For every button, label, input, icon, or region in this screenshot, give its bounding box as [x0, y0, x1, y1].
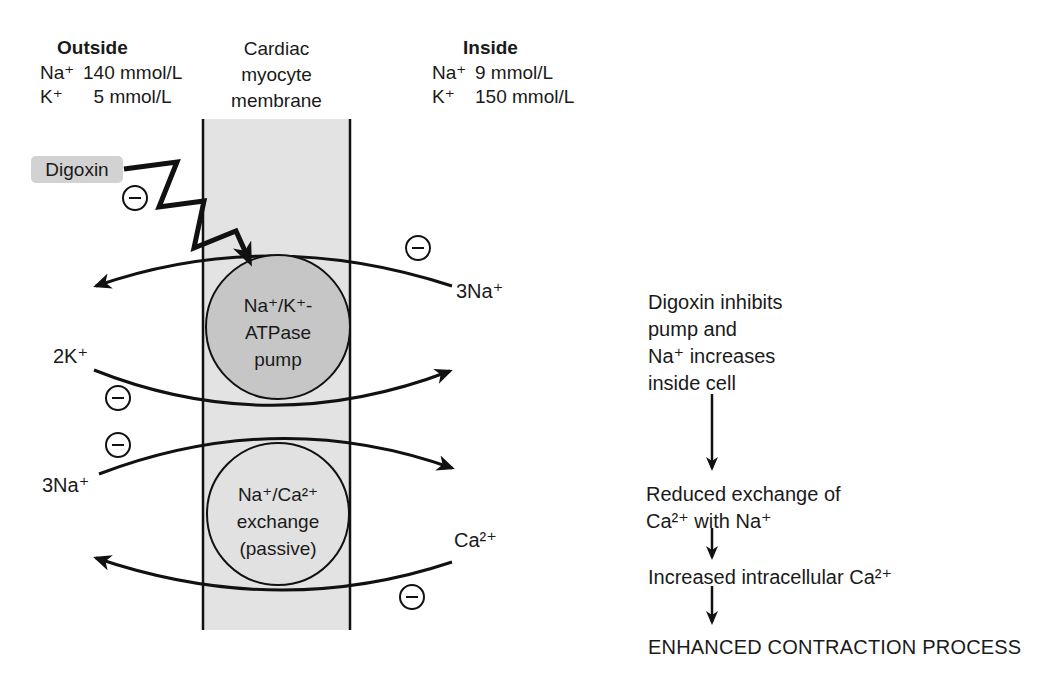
- figure-canvas: Outside Na⁺140 mmol/L K⁺ 5 mmol/L Cardia…: [0, 0, 1051, 691]
- inside-k-ion: K⁺: [432, 85, 475, 109]
- outside-concentrations: Outside Na⁺140 mmol/L K⁺ 5 mmol/L: [40, 36, 182, 109]
- flow-step1-line: Na⁺ increases: [648, 343, 783, 370]
- flow-step4: ENHANCED CONTRACTION PROCESS: [648, 635, 1021, 659]
- flow-step2-line: Ca²⁺ with Na⁺: [646, 508, 841, 535]
- flow-step1-line: pump and: [648, 316, 783, 343]
- membrane-caption-line: membrane: [202, 88, 351, 114]
- flow-step1-line: Digoxin inhibits: [648, 289, 783, 316]
- pump-caption-line: ATPase: [202, 319, 354, 346]
- exchange-caption-line: Na⁺/Ca²⁺: [202, 481, 354, 508]
- inhibition-minus-icon: [106, 386, 130, 410]
- exchange-caption-line: (passive): [202, 535, 354, 562]
- inside-na-ion: Na⁺: [432, 61, 475, 85]
- ion-label-ca-out: Ca²⁺: [454, 529, 497, 551]
- outside-na-ion: Na⁺: [40, 61, 83, 85]
- inside-title: Inside: [432, 36, 574, 60]
- flow-step2: Reduced exchange of Ca²⁺ with Na⁺: [646, 481, 841, 535]
- inhibition-minus-icon: [123, 186, 147, 210]
- flow-step1-line: inside cell: [648, 370, 783, 397]
- outside-k-value: 5 mmol/L: [83, 86, 172, 107]
- inside-k-value: 150 mmol/L: [475, 86, 574, 107]
- outside-na-value: 140 mmol/L: [83, 62, 182, 83]
- membrane-caption: Cardiac myocyte membrane: [202, 36, 351, 114]
- inhibition-minus-icon: [106, 433, 130, 457]
- digoxin-label: Digoxin: [31, 156, 123, 183]
- ion-label-2k-in: 2K⁺: [53, 345, 88, 367]
- membrane-caption-line: Cardiac: [202, 36, 351, 62]
- flow-step2-line: Reduced exchange of: [646, 481, 841, 508]
- inside-na-value: 9 mmol/L: [475, 62, 553, 83]
- inhibition-minus-icon: [400, 585, 424, 609]
- pump-caption: Na⁺/K⁺- ATPase pump: [202, 292, 354, 373]
- pump-caption-line: Na⁺/K⁺-: [202, 292, 354, 319]
- flow-step3: Increased intracellular Ca²⁺: [648, 564, 892, 591]
- pump-caption-line: pump: [202, 346, 354, 373]
- inside-k-row: K⁺150 mmol/L: [432, 85, 574, 109]
- ion-label-3na-in: 3Na⁺: [42, 474, 89, 496]
- membrane-caption-line: myocyte: [202, 62, 351, 88]
- exchange-caption: Na⁺/Ca²⁺ exchange (passive): [202, 481, 354, 562]
- inside-na-row: Na⁺9 mmol/L: [432, 61, 574, 85]
- flow-step1: Digoxin inhibits pump and Na⁺ increases …: [648, 289, 783, 397]
- outside-na-row: Na⁺140 mmol/L: [40, 61, 182, 85]
- exchange-caption-line: exchange: [202, 508, 354, 535]
- ion-label-3na-out: 3Na⁺: [456, 280, 503, 302]
- inside-concentrations: Inside Na⁺9 mmol/L K⁺150 mmol/L: [432, 36, 574, 109]
- inhibition-minus-icon: [406, 236, 430, 260]
- outside-k-ion: K⁺: [40, 85, 83, 109]
- outside-title: Outside: [40, 36, 182, 60]
- outside-k-row: K⁺ 5 mmol/L: [40, 85, 182, 109]
